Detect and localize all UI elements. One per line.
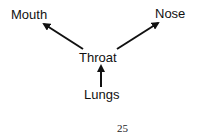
arrow-throat-to-nose (117, 23, 158, 49)
node-nose: Nose (155, 7, 185, 20)
page-number: 25 (117, 123, 128, 134)
node-mouth: Mouth (11, 8, 47, 21)
node-throat: Throat (79, 51, 117, 64)
node-lungs: Lungs (84, 88, 119, 101)
arrow-throat-to-mouth (44, 24, 83, 49)
